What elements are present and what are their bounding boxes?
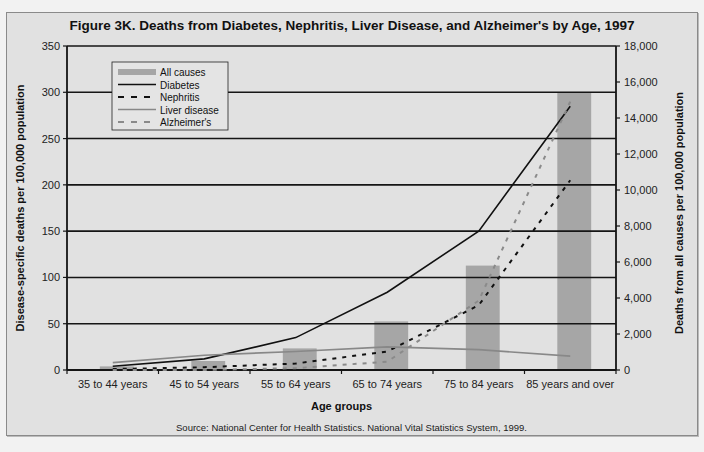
x-tick-label: 35 to 44 years bbox=[78, 378, 148, 390]
y-tick-label: 150 bbox=[42, 225, 60, 237]
series-line-nephritis bbox=[113, 180, 571, 369]
y2-tick-label: 10,000 bbox=[624, 184, 658, 196]
series-line-diabetes bbox=[113, 106, 571, 366]
y2-tick-label: 8,000 bbox=[624, 220, 652, 232]
y2-tick-label: 2,000 bbox=[624, 328, 652, 340]
legend-label: All causes bbox=[160, 67, 206, 78]
x-axis-title: Age groups bbox=[311, 400, 372, 412]
y2-tick-label: 18,000 bbox=[624, 40, 658, 52]
y2-tick-label: 16,000 bbox=[624, 76, 658, 88]
y-tick-label: 200 bbox=[42, 179, 60, 191]
x-tick-label: 55 to 64 years bbox=[261, 378, 331, 390]
chart-plot: 05010015020025030035002,0004,0006,0008,0… bbox=[0, 0, 704, 452]
y2-tick-label: 4,000 bbox=[624, 292, 652, 304]
y2-tick-label: 14,000 bbox=[624, 112, 658, 124]
legend-label: Diabetes bbox=[160, 80, 199, 91]
series-line-alzheimer-s bbox=[113, 102, 571, 370]
y-axis-title: Disease-specific deaths per 100,000 popu… bbox=[14, 84, 26, 331]
bar-all-causes bbox=[191, 361, 225, 370]
y-tick-label: 350 bbox=[42, 40, 60, 52]
source-note: Source: National Center for Health Stati… bbox=[176, 422, 527, 433]
y2-tick-label: 6,000 bbox=[624, 256, 652, 268]
y2-tick-label: 12,000 bbox=[624, 148, 658, 160]
legend-label: Alzheimer's bbox=[160, 117, 211, 128]
y-tick-label: 300 bbox=[42, 86, 60, 98]
bar-all-causes bbox=[466, 266, 500, 370]
x-tick-label: 85 years and over bbox=[526, 378, 614, 390]
x-tick-label: 45 to 54 years bbox=[169, 378, 239, 390]
x-tick-label: 65 to 74 years bbox=[352, 378, 422, 390]
legend-label: Nephritis bbox=[160, 92, 199, 103]
y-tick-label: 0 bbox=[54, 364, 60, 376]
y-tick-label: 50 bbox=[48, 318, 60, 330]
y-tick-label: 250 bbox=[42, 133, 60, 145]
legend-swatch-bar bbox=[118, 69, 156, 75]
y-tick-label: 100 bbox=[42, 271, 60, 283]
bar-all-causes bbox=[374, 321, 408, 370]
y2-axis-title: Deaths from all causes per 100,000 popul… bbox=[673, 92, 685, 334]
x-tick-label: 75 to 84 years bbox=[444, 378, 514, 390]
y2-tick-label: 0 bbox=[624, 364, 630, 376]
legend-label: Liver disease bbox=[160, 105, 219, 116]
